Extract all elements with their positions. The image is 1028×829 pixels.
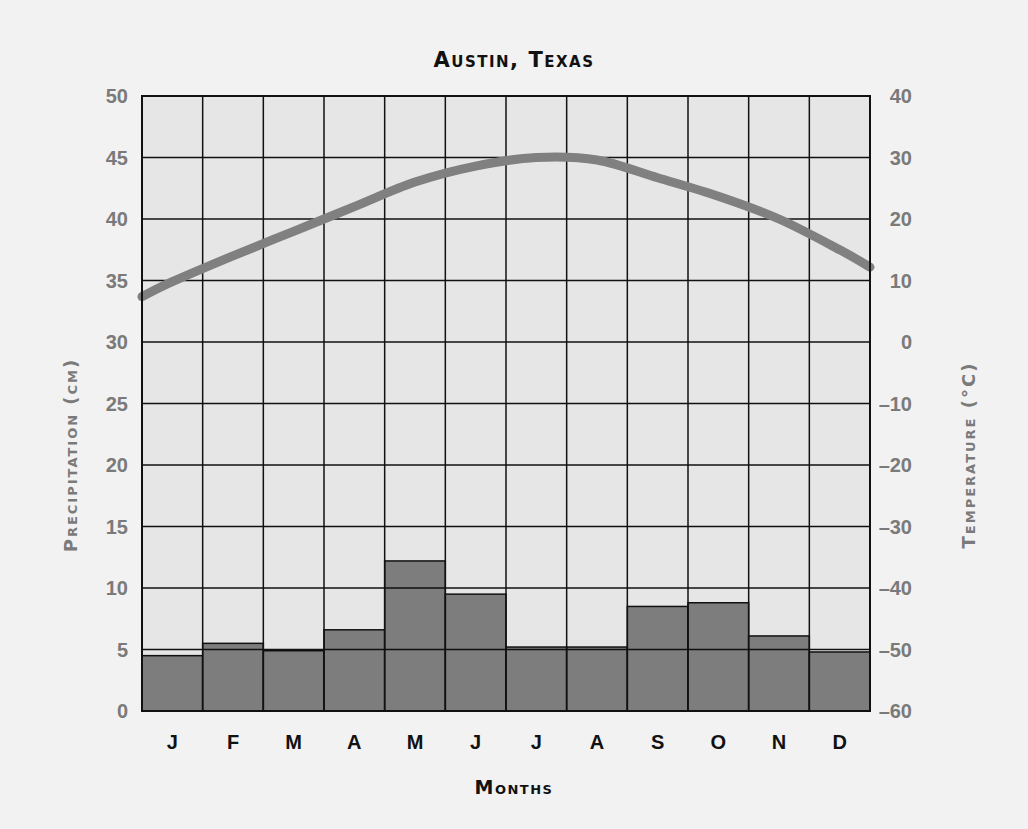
x-tick-month: D [832,731,846,753]
x-tick-month: N [772,731,786,753]
x-tick-month: A [347,731,361,753]
y-tick-left: 45 [106,147,128,169]
precipitation-bar [385,561,446,711]
y-tick-left: 15 [106,516,128,538]
climate-chart: 05101520253035404550 –60–50–40–30–20–100… [0,0,1028,829]
y-tick-right: –50 [879,639,912,661]
x-tick-month: J [167,731,178,753]
precipitation-bar [445,594,506,711]
y-tick-left: 10 [106,577,128,599]
precipitation-bar [809,652,870,711]
precipitation-bar [142,656,203,711]
precipitation-bar [324,630,385,711]
y-tick-right: 20 [890,208,912,230]
x-tick-month: O [711,731,727,753]
x-axis-label: Months [0,776,1028,798]
y-tick-left: 0 [117,700,128,722]
precipitation-bar [567,647,628,711]
x-tick-month: M [285,731,302,753]
x-tick-month: S [651,731,664,753]
y-tick-right: –30 [879,516,912,538]
y-axis-right-ticks: –60–50–40–30–20–10010203040 [879,85,912,722]
y-tick-right: –20 [879,454,912,476]
y-axis-left-label: Precipitation (cm) [60,358,81,553]
y-tick-left: 35 [106,270,128,292]
y-tick-right: 0 [901,331,912,353]
x-tick-month: J [470,731,481,753]
x-tick-month: A [590,731,604,753]
y-tick-right: 10 [890,270,912,292]
y-tick-left: 50 [106,85,128,107]
y-tick-left: 20 [106,454,128,476]
y-tick-right: –60 [879,700,912,722]
y-tick-left: 5 [117,639,128,661]
precipitation-bar [688,603,749,711]
y-tick-left: 25 [106,393,128,415]
y-tick-right: –10 [879,393,912,415]
precipitation-bar [627,606,688,711]
y-axis-left-ticks: 05101520253035404550 [106,85,128,722]
x-tick-month: F [227,731,239,753]
y-axis-right-label: Temperature (°C) [958,362,979,549]
x-axis-ticks: JFMAMJJASOND [167,731,847,753]
precipitation-bar [749,636,810,711]
y-tick-right: 30 [890,147,912,169]
precipitation-bar [203,643,264,711]
y-tick-right: 40 [890,85,912,107]
x-tick-month: M [407,731,424,753]
y-tick-left: 30 [106,331,128,353]
precipitation-bar [506,647,567,711]
y-tick-right: –40 [879,577,912,599]
y-tick-left: 40 [106,208,128,230]
x-tick-month: J [531,731,542,753]
precipitation-bar [263,651,324,711]
